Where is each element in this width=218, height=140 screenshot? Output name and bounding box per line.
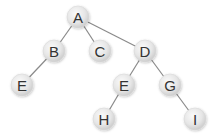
node-label: E [17, 77, 27, 94]
tree-node-e1: E [11, 74, 33, 96]
node-label: D [140, 43, 151, 60]
node-label: E [119, 77, 129, 94]
tree-node-c: C [89, 40, 111, 62]
tree-node-b: B [43, 40, 65, 62]
tree-node-h: H [93, 108, 115, 130]
tree-node-e2: E [113, 74, 135, 96]
tree-node-d: D [134, 40, 156, 62]
tree-node-a: A [67, 6, 89, 28]
tree-node-i: I [184, 108, 206, 130]
node-label: B [49, 43, 59, 60]
nodes-layer: ABCDEEGHI [11, 6, 206, 130]
node-label: C [95, 43, 106, 60]
node-label: H [99, 111, 110, 128]
edges-layer [22, 17, 195, 119]
node-label: I [193, 111, 197, 128]
tree-diagram: ABCDEEGHI [0, 0, 218, 140]
tree-node-g: G [159, 74, 181, 96]
node-label: G [164, 77, 176, 94]
node-label: A [73, 9, 83, 26]
